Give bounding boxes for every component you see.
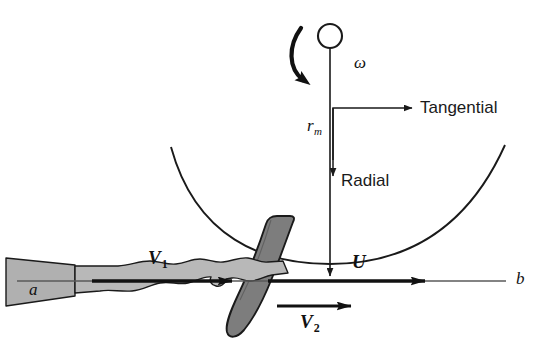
- pelton-wheel-diagram: ω rm Tangential Radial V1 U V2 a b: [0, 0, 555, 357]
- point-a-label: a: [29, 281, 38, 298]
- shaft-circle: [318, 24, 342, 48]
- radius-label: rm: [307, 117, 322, 137]
- nozzle-body: [6, 258, 75, 306]
- radial-label: Radial: [341, 172, 389, 189]
- wheel-rim-arc: [171, 145, 505, 264]
- tangential-label: Tangential: [420, 99, 498, 116]
- v2-label: V2: [300, 312, 320, 334]
- diagram-canvas: [0, 0, 555, 357]
- point-b-label: b: [516, 270, 525, 287]
- tangential-axis-arrow: [333, 108, 412, 160]
- rotation-arc: [291, 28, 303, 80]
- u-label: U: [352, 252, 366, 271]
- omega-label: ω: [354, 54, 366, 71]
- v1-label: V1: [148, 248, 168, 270]
